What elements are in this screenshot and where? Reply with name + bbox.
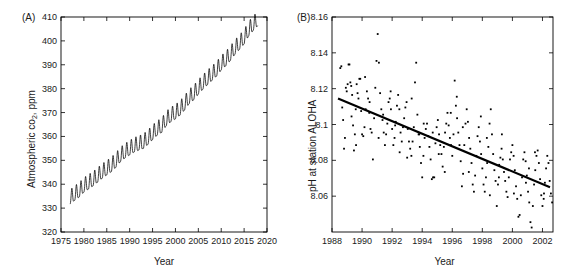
panel-b-ytick-8.06: 8.06 xyxy=(294,191,328,201)
panel-b-y-axis-label: pH at station ALOHA xyxy=(307,100,318,192)
ph-scatter-points xyxy=(339,33,553,228)
panel-a-ytick-370: 370 xyxy=(25,108,57,118)
panel-a-xtick-1980: 1980 xyxy=(74,236,94,246)
panel-b-ytick-8.08: 8.08 xyxy=(294,155,328,165)
panel-b-xtick-1994: 1994 xyxy=(412,236,432,246)
panel-b-ytick-8.14: 8.14 xyxy=(294,48,328,58)
co2-keeling-curve xyxy=(70,14,258,204)
panel-a-ytick-380: 380 xyxy=(25,84,57,94)
figure-container: (A) Atmospheric co2, ppm Year 1975198019… xyxy=(0,0,570,280)
panel-a-ytick-330: 330 xyxy=(25,203,57,213)
panel-a-ytick-400: 400 xyxy=(25,36,57,46)
panel-a-ytick-390: 390 xyxy=(25,60,57,70)
panel-b-xtick-1992: 1992 xyxy=(382,236,402,246)
panel-a-xtick-2010: 2010 xyxy=(211,236,231,246)
panel-b-xtick-1990: 1990 xyxy=(352,236,372,246)
panel-b-xtick-1988: 1988 xyxy=(322,236,342,246)
panel-a-xtick-1985: 1985 xyxy=(97,236,117,246)
panel-b-ytick-8.12: 8.12 xyxy=(294,84,328,94)
panel-a-x-axis-label: Year xyxy=(61,256,267,267)
ph-trend-line xyxy=(338,99,550,188)
panel-a-xtick-2005: 2005 xyxy=(188,236,208,246)
panel-a-xtick-2020: 2020 xyxy=(257,236,277,246)
panel-b-xtick-1998: 1998 xyxy=(472,236,492,246)
panel-a-co2-chart: (A) Atmospheric co2, ppm Year 1975198019… xyxy=(0,0,285,280)
panel-a-ytick-340: 340 xyxy=(25,179,57,189)
panel-a-xtick-2000: 2000 xyxy=(165,236,185,246)
panel-a-xtick-1995: 1995 xyxy=(143,236,163,246)
panel-a-xtick-2015: 2015 xyxy=(234,236,254,246)
panel-b-ytick-8.16: 8.16 xyxy=(294,12,328,22)
panel-b-xtick-2002: 2002 xyxy=(532,236,552,246)
panel-a-ytick-350: 350 xyxy=(25,155,57,165)
panel-a-xtick-1975: 1975 xyxy=(51,236,71,246)
panel-b-xtick-2000: 2000 xyxy=(502,236,522,246)
panel-b-ytick-8.1: 8.1 xyxy=(294,120,328,130)
panel-a-ytick-410: 410 xyxy=(25,12,57,22)
panel-b-xtick-1996: 1996 xyxy=(442,236,462,246)
panel-b-ph-chart: (B) pH at station ALOHA Year 19881990199… xyxy=(285,0,570,280)
panel-a-ytick-320: 320 xyxy=(25,227,57,237)
panel-a-xtick-1990: 1990 xyxy=(120,236,140,246)
panel-a-ytick-360: 360 xyxy=(25,131,57,141)
panel-b-x-axis-label: Year xyxy=(337,256,552,267)
